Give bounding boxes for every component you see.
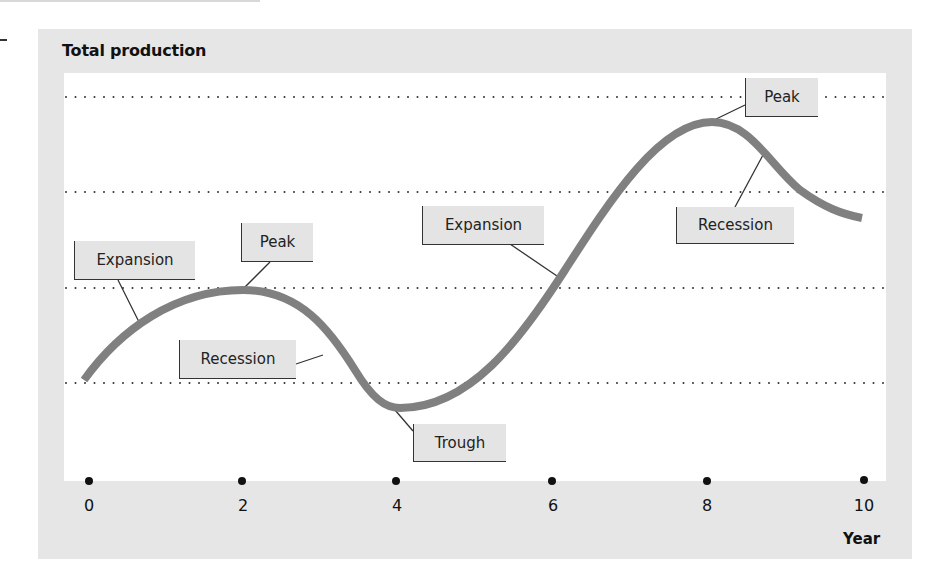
label-peak-2: Peak xyxy=(745,78,818,117)
x-axis-label: Year xyxy=(843,530,880,548)
x-tick-10: 10 xyxy=(854,496,874,515)
x-tick-0: 0 xyxy=(84,496,94,515)
label-expansion-1: Expansion xyxy=(74,241,195,280)
label-recession-2: Recession xyxy=(676,207,794,244)
x-tick-4: 4 xyxy=(392,496,402,515)
label-peak-1: Peak xyxy=(241,223,313,262)
x-axis-dots xyxy=(85,476,868,485)
label-recession-1: Recession xyxy=(179,340,296,379)
leader-lines xyxy=(118,105,763,431)
x-tick-2: 2 xyxy=(238,496,248,515)
x-tick-6: 6 xyxy=(548,496,558,515)
label-trough: Trough xyxy=(413,424,506,462)
x-tick-8: 8 xyxy=(702,496,712,515)
label-expansion-2: Expansion xyxy=(422,206,544,245)
